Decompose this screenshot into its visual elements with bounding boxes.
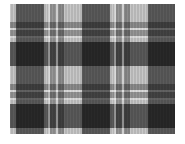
tartan-pattern-image: grayscale tartan plaid fabric pattern — [10, 4, 175, 134]
